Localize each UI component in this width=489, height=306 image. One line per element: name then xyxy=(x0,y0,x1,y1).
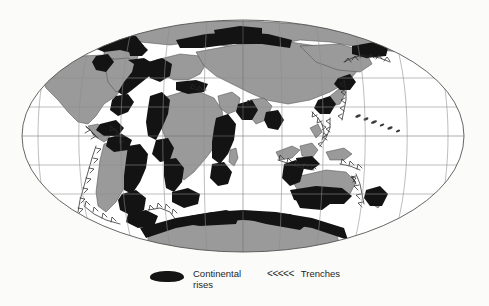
figure-world-map: Continental rises <<<<< Trenches xyxy=(0,0,489,306)
trench-chevrons-icon: <<<<< xyxy=(267,268,294,280)
map-legend: Continental rises <<<<< Trenches xyxy=(150,268,480,302)
legend-item-continental-rises: Continental rises xyxy=(150,268,241,290)
world-map-svg xyxy=(0,0,489,306)
legend-label-continental-rises: Continental rises xyxy=(193,268,241,290)
continental-rise-swatch-icon xyxy=(150,271,184,282)
legend-label-trenches: Trenches xyxy=(301,268,340,279)
legend-item-trenches: <<<<< Trenches xyxy=(267,268,340,280)
